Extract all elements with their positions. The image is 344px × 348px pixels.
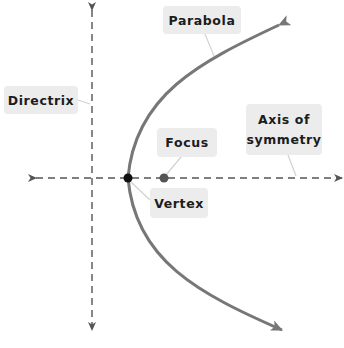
label-focus: Focus [157,128,217,157]
focus-point [160,174,169,183]
parabola-leader [205,34,214,56]
label-vertex: Vertex [150,188,208,218]
focus-label: Focus [165,135,208,150]
directrix-label: Directrix [8,93,75,108]
vertex-label: Vertex [154,196,204,211]
vertex-leader [131,182,150,200]
label-directrix: Directrix [4,86,78,114]
axis-of-symmetry-label-line1: Axis of [258,112,310,127]
directrix-leader [78,100,90,104]
parabola-diagram: Parabola Directrix Focus Axis of symmetr… [0,0,344,348]
label-axis-of-symmetry: Axis of symmetry [246,104,322,155]
focus-leader [166,157,181,175]
label-parabola: Parabola [163,6,241,34]
vertex-point [124,174,133,183]
parabola-label: Parabola [169,13,236,28]
axis-of-symmetry-label-line2: symmetry [246,132,321,147]
axis-leader [288,155,296,176]
